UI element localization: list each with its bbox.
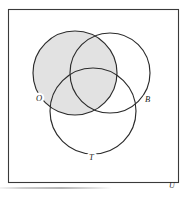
venn-diagram-canvas: O B T U <box>0 0 187 200</box>
label-set-b-group: B <box>143 94 154 105</box>
venn-diagram-figure: O B T U <box>0 0 187 200</box>
scan-artifact-band <box>0 187 112 189</box>
label-set-o-group: O <box>34 93 45 104</box>
label-set-b: B <box>145 94 150 104</box>
label-set-o: O <box>36 93 42 103</box>
label-set-t-group: T <box>87 152 98 163</box>
